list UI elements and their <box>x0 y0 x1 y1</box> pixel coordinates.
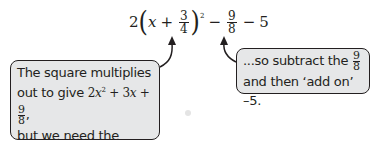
line-text: ...so subtract the <box>243 53 352 68</box>
callout-left: The square multiplies out to give 2x2 + … <box>10 60 160 140</box>
callout-right-line1: ...so subtract the 98 <box>243 51 363 72</box>
arrow-left-icon <box>160 36 176 67</box>
decorative-dot <box>185 110 191 116</box>
line-text: out to give <box>17 85 88 100</box>
fraction-denominator: 8 <box>18 116 25 126</box>
term-exp: 2 <box>102 86 106 94</box>
fraction-denominator: 8 <box>353 62 360 72</box>
callout-left-line2: out to give 2x2 + 3x + 98, <box>17 83 153 126</box>
term-plus: + 3 <box>106 86 130 100</box>
callout-fraction: 98 <box>353 51 360 72</box>
term-coef: 2 <box>88 86 95 100</box>
callout-left-line3: but we need the <box>17 126 153 141</box>
callout-left-line1: The square multiplies <box>17 63 153 83</box>
callout-right-line2: and then ‘add on’ –5. <box>243 72 363 110</box>
term-var: x <box>95 86 101 100</box>
arrow-right-icon <box>220 36 236 62</box>
callout-fraction: 98 <box>18 105 25 126</box>
callout-right: ...so subtract the 98 and then ‘add on’ … <box>236 48 370 94</box>
expansion-math: 2x2 + 3x + <box>88 86 150 100</box>
line-suffix: , <box>26 107 30 122</box>
term-plus: + <box>136 86 149 100</box>
